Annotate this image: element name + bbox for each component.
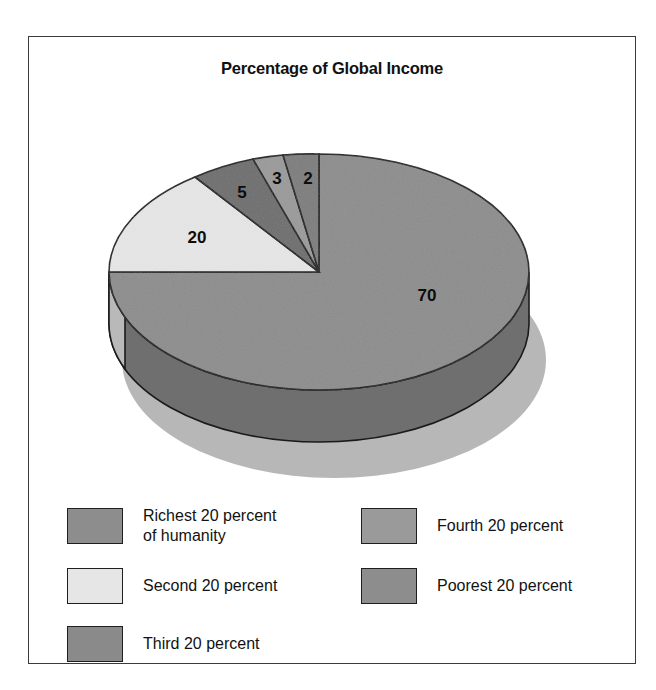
legend-item-poorest[interactable]: Poorest 20 percent (361, 557, 607, 615)
legend: Richest 20 percent of humanity Second 20… (67, 495, 607, 673)
slice-label-fourth: 3 (272, 169, 281, 188)
legend-swatch-poorest (361, 568, 417, 604)
slice-label-second: 20 (188, 228, 207, 247)
legend-item-second[interactable]: Second 20 percent (67, 557, 339, 615)
legend-column-2: Fourth 20 percent Poorest 20 percent (361, 495, 607, 673)
legend-swatch-richest (67, 508, 123, 544)
legend-item-fourth[interactable]: Fourth 20 percent (361, 495, 607, 557)
legend-swatch-third (67, 626, 123, 662)
slice-label-richest: 70 (418, 286, 437, 305)
pie-svg: 70 20 5 3 2 (29, 92, 637, 492)
pie-chart: 70 20 5 3 2 (29, 92, 637, 492)
slice-label-poorest: 2 (303, 169, 312, 188)
legend-item-third[interactable]: Third 20 percent (67, 615, 339, 673)
legend-item-richest[interactable]: Richest 20 percent of humanity (67, 495, 339, 557)
legend-label-fourth: Fourth 20 percent (437, 516, 563, 536)
legend-swatch-fourth (361, 508, 417, 544)
legend-label-richest: Richest 20 percent of humanity (143, 506, 276, 545)
legend-label-second: Second 20 percent (143, 576, 277, 596)
legend-swatch-second (67, 568, 123, 604)
legend-label-third: Third 20 percent (143, 634, 260, 654)
legend-column-1: Richest 20 percent of humanity Second 20… (67, 495, 339, 673)
legend-spacer (361, 615, 607, 673)
legend-label-poorest: Poorest 20 percent (437, 576, 572, 596)
slice-label-third: 5 (237, 183, 246, 202)
figure-frame: Percentage of Global Income (28, 36, 636, 664)
chart-title: Percentage of Global Income (29, 59, 635, 78)
